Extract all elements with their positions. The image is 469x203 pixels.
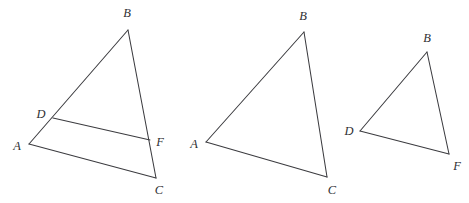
vertex-label-b-triangle-2: B [299,10,307,23]
vertex-label-a-triangle-2: A [190,138,198,151]
geometry-figure: ABCDFABCDBF [0,0,469,203]
vertex-label-d-triangle-1: D [36,108,45,121]
vertex-label-d-triangle-3: D [344,125,353,138]
segment-DF [53,118,150,140]
side-CA [206,142,327,177]
vertex-label-c-triangle-2: C [328,184,336,197]
side-BC [128,30,156,178]
vertex-label-c-triangle-1: C [155,184,163,197]
side-FD [360,131,449,154]
side-AB [206,32,304,142]
triangle-dbf [360,52,449,154]
vertex-label-a-triangle-1: A [13,140,21,153]
vertex-label-f-triangle-3: F [453,160,461,173]
triangle-abc-with-segment-df [29,30,156,178]
side-BF [427,52,449,154]
vertex-label-f-triangle-1: F [156,136,164,149]
side-CA [29,144,156,178]
geometry-canvas [0,0,469,203]
side-AB [29,30,128,144]
side-BC [304,32,327,177]
vertex-label-b-triangle-3: B [423,32,431,45]
vertex-label-b-triangle-1: B [123,7,131,20]
side-DB [360,52,427,131]
triangle-abc [206,32,327,177]
